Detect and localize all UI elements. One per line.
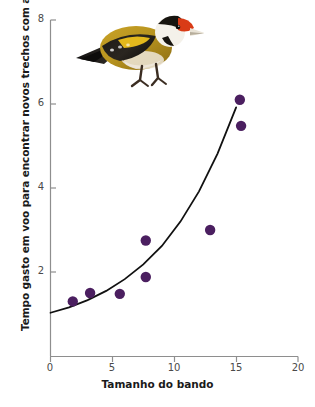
plot-area bbox=[0, 0, 315, 407]
x-axis-title: Tamanho do bando bbox=[0, 378, 315, 390]
x-tick-label-20: 20 bbox=[288, 362, 308, 373]
data-point bbox=[205, 225, 215, 235]
data-point bbox=[236, 121, 246, 131]
chart-figure: 8 6 4 2 0 5 10 15 20 Tempo gasto em voo … bbox=[0, 0, 315, 407]
fitted-curve bbox=[51, 107, 237, 312]
data-point bbox=[68, 296, 78, 306]
data-point-group bbox=[68, 95, 247, 307]
data-point bbox=[235, 95, 245, 105]
x-tick-label-10: 10 bbox=[164, 362, 184, 373]
x-tick-label-0: 0 bbox=[40, 362, 60, 373]
data-point bbox=[141, 272, 151, 282]
data-point bbox=[141, 235, 151, 245]
fitted-curve-path bbox=[51, 107, 237, 312]
y-axis-title: Tempo gasto em voo para encontrar novos … bbox=[19, 1, 31, 331]
x-tick-label-5: 5 bbox=[102, 362, 122, 373]
data-point bbox=[85, 288, 95, 298]
x-tick-label-15: 15 bbox=[226, 362, 246, 373]
data-point bbox=[115, 289, 125, 299]
